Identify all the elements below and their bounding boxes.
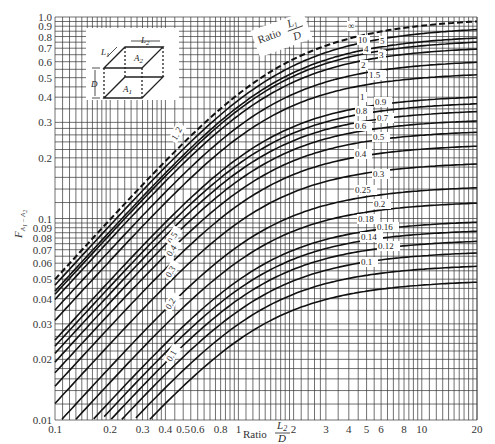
- curve-label: 0.14: [361, 232, 377, 242]
- x-axis-label-num: L2: [276, 419, 287, 433]
- y-tick-label: 0.05: [33, 273, 53, 285]
- y-tick-label: 1.0: [38, 11, 52, 23]
- curve-label: 1.5: [369, 70, 381, 80]
- y-axis-label: FA1 – A2: [12, 210, 28, 239]
- curve-label: 0.4: [355, 149, 367, 159]
- x-tick-label: 0.4: [159, 423, 173, 435]
- x-tick-label: 0.8: [214, 423, 228, 435]
- curve-label: 4: [364, 44, 369, 54]
- y-axis-label-text: FA1 – A2: [12, 210, 28, 239]
- x-tick-label: 2: [291, 423, 297, 435]
- curve-label: 0.16: [377, 222, 393, 232]
- x-tick-label: 0.3: [136, 423, 150, 435]
- y-tick-label: 0.06: [33, 257, 53, 269]
- y-tick-label: 0.03: [33, 318, 53, 330]
- curve-label: 0.25: [355, 185, 371, 195]
- y-tick-label: 0.07: [33, 244, 53, 256]
- inset-label-d: D: [90, 79, 98, 89]
- x-tick-label: 0.2: [103, 423, 117, 435]
- curve-label: ∞: [348, 21, 354, 31]
- x-tick-label: 20: [472, 423, 484, 435]
- curve-label: 0.7: [377, 113, 389, 123]
- curve-label: 0.3: [373, 169, 385, 179]
- curve-label: 0.1: [361, 257, 372, 267]
- x-tick-label: 10: [416, 423, 428, 435]
- y-tick-label: 0.7: [38, 42, 52, 54]
- y-tick-label: 0.6: [38, 56, 52, 68]
- curve-label: 0.5: [373, 132, 385, 142]
- y-tick-label: 0.4: [38, 91, 52, 103]
- inset-diagram: A2 A1 L2 L1 D: [86, 28, 179, 100]
- curve-label: 0.12: [378, 241, 394, 251]
- y-tick-label: 0.08: [33, 232, 53, 244]
- x-tick-label: 5: [364, 423, 370, 435]
- y-tick-label: 0.3: [38, 116, 52, 128]
- curve-l1-d-0.25: [76, 203, 477, 419]
- x-tick-label: 0.6: [191, 423, 205, 435]
- x-tick-label: 8: [401, 423, 407, 435]
- y-tick-label: 0.01: [33, 414, 52, 426]
- curve-label: 1: [360, 92, 365, 102]
- curve-label: 0.8: [356, 106, 368, 116]
- curve-label: 0.2: [374, 199, 385, 209]
- y-tick-label: 0.04: [33, 293, 53, 305]
- x-axis-label-den: D: [278, 433, 286, 444]
- ratio-l1-d-label: Ratio L1 D: [250, 12, 312, 57]
- y-tick-label: 0.2: [38, 152, 52, 164]
- x-axis-label-prefix: Ratio: [243, 428, 267, 440]
- curve-label: 0.18: [358, 214, 374, 224]
- curve-label: 3: [379, 50, 384, 60]
- x-tick-label: 6: [378, 423, 384, 435]
- curve-label: 0.6: [355, 121, 367, 131]
- y-axis-ticks: 0.010.020.030.040.050.060.070.080.090.10…: [33, 11, 53, 426]
- x-tick-label: 0.5: [176, 423, 190, 435]
- curve-l1-d-0.3: [62, 188, 477, 419]
- y-tick-label: 0.8: [38, 31, 52, 43]
- x-tick-label: 4: [346, 423, 352, 435]
- x-tick-label: 1: [236, 423, 242, 435]
- curve-label: 5: [380, 36, 385, 46]
- x-tick-label: 3: [323, 423, 329, 435]
- curve-label: 0.9: [375, 97, 387, 107]
- y-tick-label: 0.02: [33, 353, 52, 365]
- y-tick-label: 0.5: [38, 72, 52, 84]
- curve-label: 2: [361, 60, 366, 70]
- y-tick-label: 0.1: [38, 213, 52, 225]
